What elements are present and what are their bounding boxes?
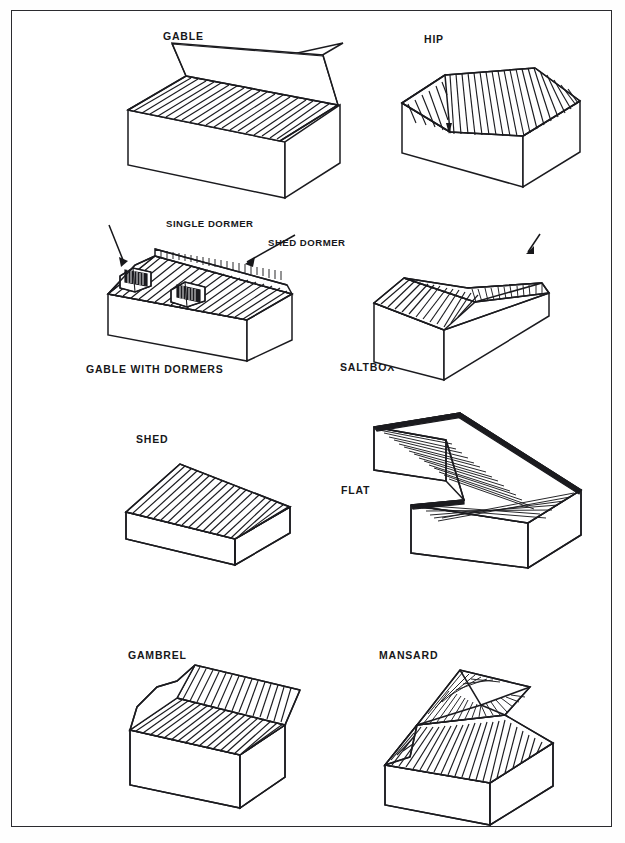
callout-label-single-dormer: SINGLE DORMER: [166, 219, 254, 229]
figure-flat: [368, 405, 598, 570]
roof-types-plate: GABLE: [0, 0, 625, 843]
figure-shed: [112, 440, 342, 570]
figure-hip: [390, 35, 605, 185]
figure-gable: [110, 35, 340, 180]
figure-saltbox: [352, 240, 592, 380]
figure-gambrel: [105, 645, 325, 805]
figure-label-flat: FLAT: [341, 485, 370, 496]
figure-mansard: [355, 645, 585, 810]
figure-gable-with-dormers: [95, 230, 345, 370]
